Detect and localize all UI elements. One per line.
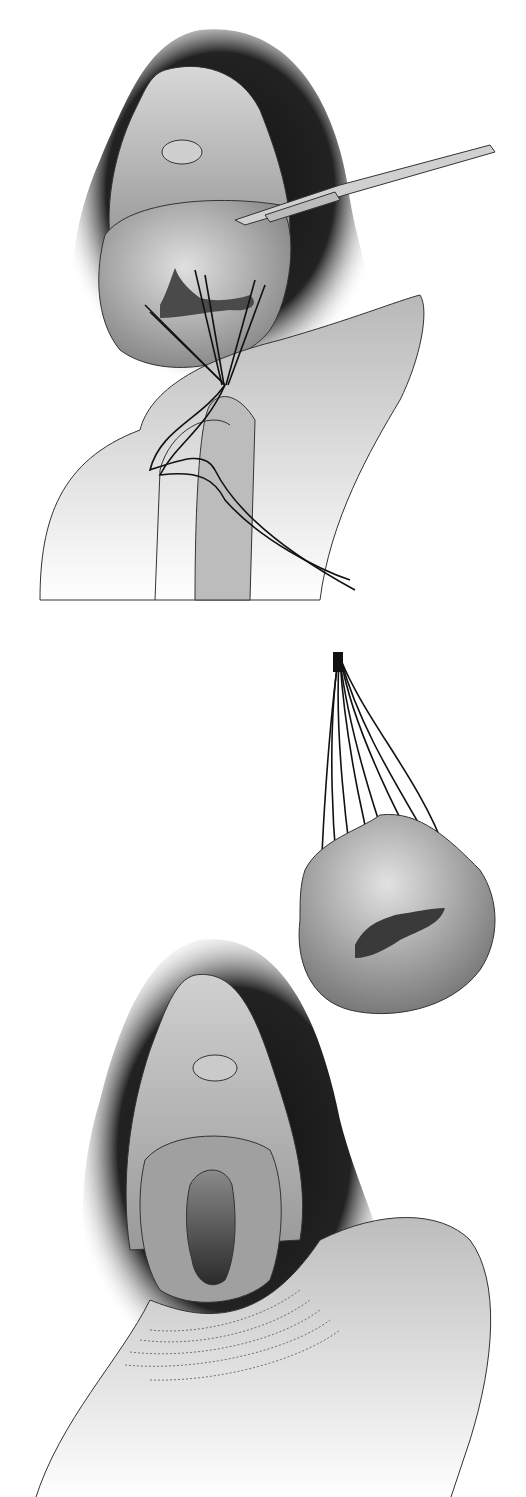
cavity (186, 1170, 235, 1285)
panel-top (0, 0, 526, 610)
surgical-field-top-illustration (0, 0, 526, 610)
suture-knot (333, 652, 343, 672)
surgical-field-bottom-illustration (0, 640, 526, 1497)
panel-bottom (0, 640, 526, 1497)
medical-illustration (0, 0, 526, 1497)
excised-mass (299, 814, 495, 1013)
